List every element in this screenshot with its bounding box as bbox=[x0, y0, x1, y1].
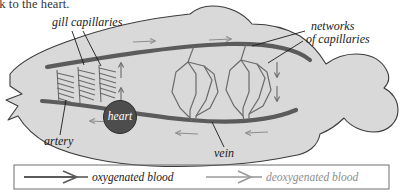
legend-label-deoxygenated: deoxygenated blood bbox=[266, 171, 358, 184]
legend-label-oxygenated: oxygenated blood bbox=[92, 171, 173, 184]
label-artery: artery bbox=[44, 135, 73, 148]
legend-arrow-oxygenated bbox=[24, 171, 88, 183]
diagram-stage: ack to the heart. bbox=[0, 0, 402, 192]
label-heart: heart bbox=[103, 110, 137, 123]
label-gill-capillaries: gill capillaries bbox=[52, 16, 122, 29]
label-vein: vein bbox=[214, 147, 234, 160]
legend-arrow-deoxygenated bbox=[206, 171, 262, 183]
label-networks-of-capillaries-line2: of capillaries bbox=[306, 33, 370, 46]
